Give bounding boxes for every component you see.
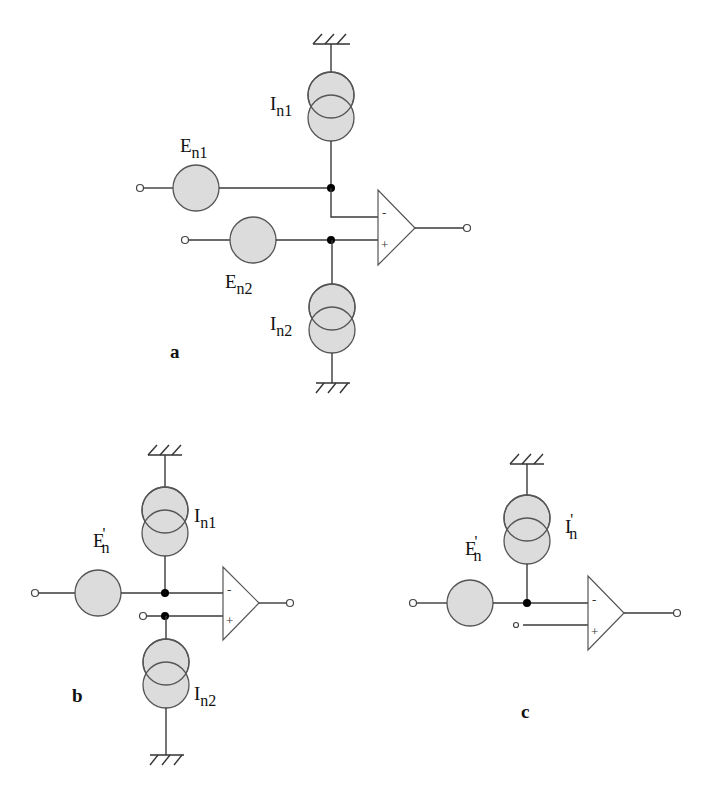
input-terminal [182,237,189,244]
label-en1: En1 [180,135,208,161]
junction-node [523,599,531,607]
input-terminal [137,185,144,192]
current-source-in2-icon [143,639,189,708]
label-in2: In2 [270,313,292,339]
voltage-source-en-icon [447,580,493,626]
junction-node [161,612,169,620]
current-source-in1-icon [142,487,188,556]
label-en-prime: E'n [465,533,482,564]
svg-text:+: + [381,237,388,252]
current-source-in-prime-icon [504,495,550,564]
ground-icon [148,445,182,455]
panel-a: In1 En1 En2 In2 [137,34,471,393]
output-terminal [464,225,471,232]
voltage-source-en-icon [75,570,121,616]
label-en-prime: E'n [93,525,110,556]
svg-text:+: + [226,613,233,628]
svg-text:+: + [591,624,598,639]
svg-text:-: - [227,582,231,597]
ground-icon [510,454,544,464]
input-terminal [410,600,417,607]
input-terminal [32,590,39,597]
current-source-in2-icon [309,284,355,353]
opamp-icon: - + [378,190,415,265]
panel-label-c: c [521,701,529,722]
input-terminal [514,623,519,628]
label-in2: In2 [194,683,216,709]
svg-text:-: - [592,592,596,607]
panel-c: I'n E'n - + c [410,454,681,722]
input-terminal [140,613,147,620]
panel-b: In1 E'n In2 - + b [32,445,294,765]
opamp-icon: - + [223,567,259,640]
voltage-source-en2-icon [230,217,276,263]
label-in1: In1 [270,93,292,119]
noise-model-diagram: In1 En1 En2 In2 [0,0,701,790]
svg-text:-: - [382,205,386,220]
label-en2: En2 [225,271,253,297]
current-source-in1-icon [308,72,354,141]
junction-node [327,236,335,244]
opamp-icon: - + [588,576,624,650]
label-in-prime: I'n [565,511,577,542]
label-in1: In1 [194,505,216,531]
panel-label-b: b [72,685,83,706]
voltage-source-en1-icon [173,165,219,211]
junction-node [161,589,169,597]
output-terminal [674,610,681,617]
output-terminal [287,600,294,607]
ground-icon [150,755,184,765]
ground-icon [316,383,350,393]
panel-label-a: a [170,341,180,362]
ground-icon [313,34,350,44]
